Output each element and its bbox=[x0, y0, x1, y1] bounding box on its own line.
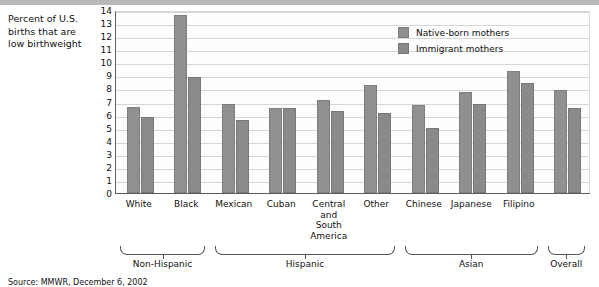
plot-area: 14131211109876543210 bbox=[95, 11, 590, 201]
y-tick-label: 5 bbox=[106, 124, 112, 133]
bar-group bbox=[552, 12, 582, 193]
y-tick-label: 13 bbox=[101, 20, 112, 29]
bar-native-born bbox=[554, 90, 567, 193]
plot-panel bbox=[115, 11, 590, 194]
y-tick-label: 12 bbox=[101, 33, 112, 42]
bar-group bbox=[125, 12, 155, 193]
bar-group bbox=[172, 12, 202, 193]
bar-group bbox=[220, 12, 250, 193]
y-tick-label: 9 bbox=[106, 72, 112, 81]
y-tick-label: 10 bbox=[101, 59, 112, 68]
legend-label: Immigrant mothers bbox=[416, 44, 503, 54]
bar-immigrant bbox=[378, 113, 391, 193]
y-axis-tick-labels: 14131211109876543210 bbox=[95, 11, 112, 201]
group-bracket: Overall bbox=[548, 243, 586, 256]
bar-immigrant bbox=[236, 120, 249, 193]
bar-group bbox=[267, 12, 297, 193]
group-label: Overall bbox=[548, 259, 586, 269]
group-bracket: Non-Hispanic bbox=[120, 243, 205, 256]
group-bracket: Asian bbox=[405, 243, 538, 256]
y-tick-label: 11 bbox=[101, 46, 112, 55]
bar-native-born bbox=[364, 85, 377, 193]
bar-immigrant bbox=[521, 83, 534, 193]
bar-immigrant bbox=[426, 128, 439, 193]
bar-native-born bbox=[174, 15, 187, 193]
bar-group bbox=[362, 12, 392, 193]
legend-swatch bbox=[398, 27, 409, 38]
x-axis-category-labels: WhiteBlackMexicanCubanCentralandSouthAme… bbox=[115, 199, 590, 243]
group-label: Non-Hispanic bbox=[120, 259, 205, 269]
y-tick-label: 0 bbox=[106, 190, 112, 199]
y-tick-label: 2 bbox=[106, 163, 112, 172]
source-note: Source: MMWR, December 6, 2002 bbox=[8, 278, 148, 287]
legend-item: Immigrant mothers bbox=[398, 43, 509, 54]
bar-immigrant bbox=[283, 108, 296, 193]
group-label: Asian bbox=[405, 259, 538, 269]
bar-native-born bbox=[127, 107, 140, 193]
chart-caption: Percent of U.S. births that are low birt… bbox=[8, 13, 94, 51]
y-tick-label: 4 bbox=[106, 137, 112, 146]
chart-legend: Native-born mothersImmigrant mothers bbox=[398, 27, 509, 59]
y-tick-label: 3 bbox=[106, 150, 112, 159]
y-tick-label: 1 bbox=[106, 176, 112, 185]
legend-swatch bbox=[398, 43, 409, 54]
y-tick-label: 6 bbox=[106, 111, 112, 120]
bar-native-born bbox=[269, 108, 282, 193]
bar-immigrant bbox=[473, 104, 486, 193]
low-birthweight-bar-chart: Percent of U.S. births that are low birt… bbox=[0, 5, 599, 284]
bar-immigrant bbox=[188, 77, 201, 193]
legend-item: Native-born mothers bbox=[398, 27, 509, 38]
bar-native-born bbox=[317, 100, 330, 193]
group-bracket: Hispanic bbox=[215, 243, 395, 256]
bar-native-born bbox=[412, 105, 425, 193]
bar-immigrant bbox=[331, 111, 344, 193]
y-tick-label: 7 bbox=[106, 98, 112, 107]
bar-native-born bbox=[222, 104, 235, 193]
y-tick-label: 8 bbox=[106, 85, 112, 94]
bar-series-container bbox=[116, 12, 590, 193]
y-tick-label: 14 bbox=[101, 7, 112, 16]
legend-label: Native-born mothers bbox=[416, 28, 509, 38]
bar-group bbox=[505, 12, 535, 193]
group-brackets: Non-HispanicHispanicAsianOverall bbox=[115, 243, 590, 277]
group-label: Hispanic bbox=[215, 259, 395, 269]
bar-native-born bbox=[459, 92, 472, 193]
bar-native-born bbox=[507, 71, 520, 193]
x-tick-label: Filipino bbox=[489, 199, 549, 210]
bar-immigrant bbox=[568, 108, 581, 193]
bar-immigrant bbox=[141, 117, 154, 193]
bar-group bbox=[315, 12, 345, 193]
